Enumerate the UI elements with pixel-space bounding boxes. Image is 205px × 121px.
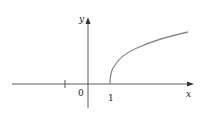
tick-label-one: 1: [108, 93, 114, 103]
x-axis-label: x: [186, 89, 191, 99]
y-axis-label: y: [78, 14, 85, 24]
origin-label: 0: [78, 88, 84, 98]
x-axis-arrow-icon: [187, 82, 194, 87]
graph: y x 0 1: [0, 0, 205, 121]
y-axis-arrow-icon: [86, 17, 91, 24]
curve: [110, 32, 188, 84]
